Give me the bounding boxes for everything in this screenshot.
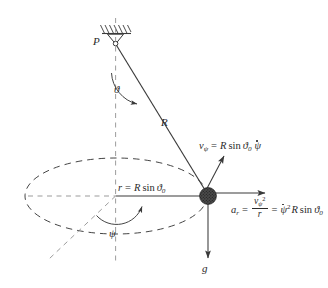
polar-angle-label: ϑ: [114, 84, 119, 95]
ar-eq-a-sub: r: [236, 209, 239, 217]
ar-eq-frac-v-sup: 2: [262, 195, 265, 202]
ar-eq-sin: sin: [300, 204, 312, 215]
ar-eq-theta-sub: 0: [319, 209, 323, 217]
ar-eq-psidot: ψ: [280, 205, 287, 216]
radius-eq-lhs: r: [118, 182, 122, 193]
azimuth-angle-label: ψ: [109, 228, 116, 239]
vpsi-eq-R: R: [220, 140, 226, 151]
figure-canvas: P ϑ R ψ g r=Rsinϑ0 vψ=Rsinϑ0ψ ar=vψ2r=ψ2…: [0, 0, 328, 288]
vpsi-eq-psidot: ψ: [254, 141, 261, 152]
gravity-label: g: [202, 263, 208, 274]
tangential-velocity-equation: vψ=Rsinϑ0ψ: [199, 141, 261, 153]
ar-eq-R: R: [291, 204, 297, 215]
vpsi-eq-theta-sub: 0: [248, 145, 252, 153]
vpsi-eq-equals: =: [211, 140, 217, 151]
vpsi-eq-sin: sin: [228, 140, 240, 151]
radius-equation: r=Rsinϑ0: [118, 183, 165, 195]
ar-eq-frac-denominator: r: [252, 209, 268, 219]
ar-eq-fraction: vψ2r: [252, 196, 268, 219]
azimuth-angle-arc: [97, 207, 143, 225]
radius-eq-sin: sin: [142, 182, 154, 193]
ar-eq-psidot-sup: 2: [287, 203, 290, 210]
radius-eq-equals: =: [125, 182, 131, 193]
spherical-pendulum-diagram: [0, 0, 328, 288]
ar-eq-equals-2: =: [272, 204, 278, 215]
string-length-label: R: [161, 117, 168, 128]
azimuth-reference-line: [49, 196, 116, 259]
radial-acceleration-equation: ar=vψ2r=ψ2Rsinϑ0: [231, 196, 323, 219]
vpsi-eq-v-sub: ψ: [204, 145, 208, 153]
radius-eq-R: R: [134, 182, 140, 193]
radius-eq-theta-sub: 0: [162, 187, 166, 195]
pendulum-bob: [200, 188, 217, 205]
ar-eq-frac-numerator: vψ2: [252, 196, 268, 209]
pivot-label: P: [93, 36, 100, 47]
ar-eq-equals-1: =: [242, 204, 248, 215]
